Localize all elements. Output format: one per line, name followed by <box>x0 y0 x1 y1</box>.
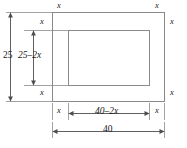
label-margin-right-lower: x <box>170 88 174 97</box>
label-margin-right-upper: x <box>170 17 174 26</box>
label-width-inner: 40–2x <box>95 107 118 117</box>
label-margin-top-right: x <box>155 1 159 10</box>
label-margin-left-lower: x <box>40 88 44 97</box>
label-margin-left-upper: x <box>40 17 44 26</box>
figure-lines <box>0 0 187 148</box>
label-height-outer: 25 <box>3 51 13 61</box>
geometry-figure: x x x x x x x x 25 25–2x 40–2x 40 <box>0 0 187 148</box>
label-height-inner: 25–2x <box>18 51 41 61</box>
label-margin-top-left: x <box>57 1 61 10</box>
label-width-outer: 40 <box>103 125 113 135</box>
inner-rectangle <box>69 31 150 86</box>
label-margin-bottom-left: x <box>57 106 61 115</box>
outer-rectangle <box>53 13 165 102</box>
label-margin-bottom-right: x <box>155 106 159 115</box>
